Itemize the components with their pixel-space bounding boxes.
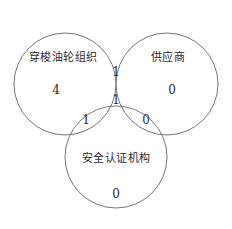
venn-diagram: 穿梭油轮组织 供应商 安全认证机构 4 0 0 1 1 0 1: [0, 0, 232, 229]
set-label-safety-certification-agency: 安全认证机构: [82, 153, 151, 164]
region-count-all-three-sets: 1: [112, 94, 120, 106]
circle-supplier: [116, 33, 218, 135]
region-count-supplier-and-safety-agency: 0: [142, 114, 150, 126]
set-label-shuttle-tanker-org: 穿梭油轮组织: [29, 52, 98, 63]
region-count-only-shuttle-tanker-org: 4: [52, 84, 60, 96]
region-count-only-safety-certification-agency: 0: [112, 188, 120, 200]
circle-shuttle-tanker-org: [14, 33, 116, 135]
region-count-shuttle-tanker-org-and-safety-agency: 1: [82, 114, 90, 126]
region-count-only-supplier: 0: [168, 84, 176, 96]
region-count-shuttle-tanker-org-and-supplier: 1: [112, 66, 120, 78]
set-label-supplier: 供应商: [151, 52, 186, 63]
